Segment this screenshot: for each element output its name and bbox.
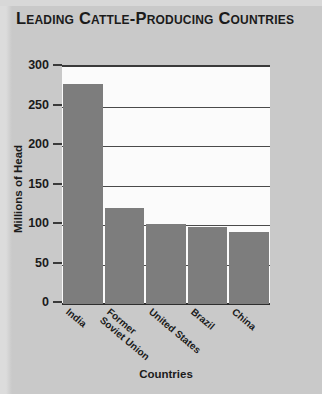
bar xyxy=(105,208,145,304)
x-axis-category-label-line: China xyxy=(230,306,258,332)
bar xyxy=(188,227,228,304)
y-axis-tick-label: 300 xyxy=(28,58,53,72)
x-axis-category-label: China xyxy=(230,306,258,332)
y-axis-tick: 250 xyxy=(28,98,62,112)
y-axis: Millions of Head 050100150200250300 xyxy=(0,65,62,302)
y-axis-tick-mark xyxy=(53,104,62,106)
bar-slot xyxy=(146,67,186,304)
bar-slot xyxy=(105,67,145,304)
y-axis-tick-label: 250 xyxy=(28,98,53,112)
y-axis-tick-mark xyxy=(53,143,62,145)
bar xyxy=(146,224,186,304)
chart-title: Leading Cattle-Producing Countries xyxy=(16,8,308,28)
x-axis: IndiaFormerSoviet UnionUnited StatesBraz… xyxy=(62,302,270,364)
y-axis-tick: 0 xyxy=(42,295,62,309)
bar-slot xyxy=(63,67,103,304)
y-axis-tick-mark xyxy=(53,301,62,303)
x-axis-title: Countries xyxy=(62,368,270,380)
y-axis-tick-label: 150 xyxy=(28,177,53,191)
y-axis-tick-label: 50 xyxy=(35,256,53,270)
plot-area xyxy=(62,65,270,304)
x-axis-category-label-line: Brazil xyxy=(189,306,217,332)
y-axis-tick-label: 200 xyxy=(28,137,53,151)
y-axis-tick: 200 xyxy=(28,137,62,151)
y-axis-tick: 50 xyxy=(35,256,62,270)
x-axis-category-label-line: India xyxy=(64,306,89,329)
y-axis-tick: 150 xyxy=(28,177,62,191)
y-axis-tick-mark xyxy=(53,262,62,264)
bar-slot xyxy=(188,67,228,304)
chart-page: Leading Cattle-Producing Countries Milli… xyxy=(0,0,322,394)
bar xyxy=(63,84,103,304)
y-axis-title: Millions of Head xyxy=(12,109,24,269)
y-axis-tick-mark xyxy=(53,64,62,66)
bar-slot xyxy=(229,67,269,304)
y-axis-tick-mark xyxy=(53,183,62,185)
y-axis-tick-label: 100 xyxy=(28,216,53,230)
y-axis-tick-mark xyxy=(53,222,62,224)
bar-series xyxy=(62,67,270,304)
y-axis-tick: 300 xyxy=(28,58,62,72)
y-axis-tick: 100 xyxy=(28,216,62,230)
x-axis-category-label: India xyxy=(64,306,89,329)
y-axis-tick-label: 0 xyxy=(42,295,53,309)
x-axis-category-label: Brazil xyxy=(189,306,217,332)
bar xyxy=(229,232,269,304)
